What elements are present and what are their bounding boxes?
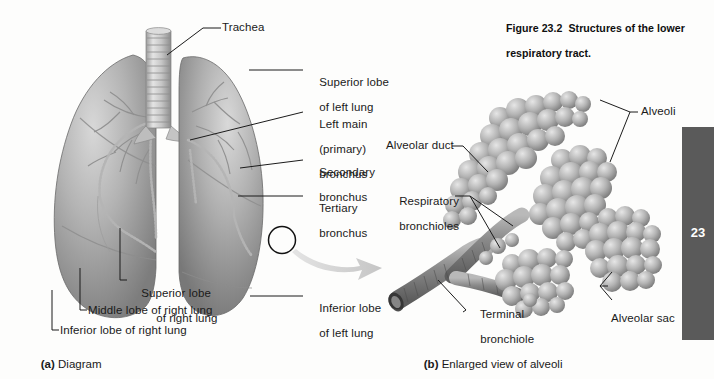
label-superior-lobe-left-line1: Superior lobe bbox=[319, 76, 389, 88]
label-inferior-lobe-left: Inferior lobe of left lung bbox=[306, 289, 381, 352]
figure-caption: Figure 23.2 Structures of the lower resp… bbox=[494, 10, 685, 72]
label-respiratory-bronchioles-line2: bronchioles bbox=[399, 220, 459, 232]
label-left-main-line1: Left main bbox=[319, 118, 367, 130]
figure-caption-line2: respiratory tract. bbox=[506, 47, 591, 59]
alveolar-cluster-lower-right bbox=[585, 206, 662, 292]
leader-inferior-lobe-right bbox=[52, 290, 59, 330]
panel-a-caption-prefix: (a) bbox=[41, 358, 55, 370]
leader-secondary-bronchus bbox=[240, 160, 303, 168]
label-terminal-bronchiole-line1: Terminal bbox=[480, 308, 524, 320]
label-tertiary-line2: bronchus bbox=[319, 227, 367, 239]
label-secondary-line1: Secondary bbox=[319, 166, 375, 178]
figure-page: Figure 23.2 Structures of the lower resp… bbox=[0, 0, 714, 379]
alveolar-cluster-middle bbox=[529, 145, 617, 252]
label-inferior-lobe-left-line2: of left lung bbox=[319, 327, 373, 339]
panel-a-caption: (a) Diagram bbox=[28, 346, 102, 379]
panel-b-caption: (b) Enlarged view of alveoli bbox=[411, 346, 562, 379]
leader-left-main-bronchus bbox=[190, 112, 303, 140]
leader-alveolar-duct bbox=[463, 146, 488, 172]
leader-trachea bbox=[167, 28, 203, 55]
chapter-tab: 23 bbox=[682, 127, 714, 340]
label-terminal-bronchiole-line2: bronchiole bbox=[480, 333, 534, 345]
leader-alveoli bbox=[600, 100, 638, 162]
panel-b-leader-lines bbox=[438, 100, 638, 312]
panel-a-caption-text: Diagram bbox=[55, 358, 102, 370]
label-alveolar-duct: Alveolar duct bbox=[386, 139, 454, 152]
label-trachea: Trachea bbox=[222, 21, 264, 34]
label-inferior-lobe-right: Inferior lobe of right lung bbox=[60, 324, 187, 337]
zoom-arrow bbox=[292, 249, 382, 280]
label-tertiary-bronchus: Tertiary bronchus bbox=[306, 189, 367, 252]
label-respiratory-bronchioles: Respiratory bronchioles bbox=[386, 182, 459, 245]
leader-respiratory-bronchioles bbox=[455, 196, 513, 248]
chapter-number: 23 bbox=[682, 225, 714, 240]
label-alveoli: Alveoli bbox=[641, 105, 676, 118]
label-superior-lobe-right-line1: Superior lobe bbox=[141, 287, 211, 299]
zoom-region-circle bbox=[269, 227, 296, 254]
label-tertiary-line1: Tertiary bbox=[319, 202, 358, 214]
figure-caption-line1: Figure 23.2 Structures of the lower bbox=[506, 22, 685, 34]
label-middle-lobe-right: Middle lobe of right lung bbox=[88, 304, 213, 317]
panel-b-caption-prefix: (b) bbox=[424, 358, 439, 370]
label-inferior-lobe-left-line1: Inferior lobe bbox=[319, 302, 381, 314]
label-respiratory-bronchioles-line1: Respiratory bbox=[399, 195, 459, 207]
alveolar-cluster-upper bbox=[443, 91, 591, 229]
leader-superior-lobe-right bbox=[120, 228, 127, 280]
trachea-illustration bbox=[134, 28, 190, 144]
leader-alveolar-sac bbox=[600, 272, 612, 300]
panel-b-caption-text: Enlarged view of alveoli bbox=[438, 358, 562, 370]
leader-middle-lobe-right bbox=[80, 268, 87, 310]
label-alveolar-sac: Alveolar sac bbox=[611, 312, 675, 325]
leader-terminal-bronchiole bbox=[438, 280, 466, 312]
